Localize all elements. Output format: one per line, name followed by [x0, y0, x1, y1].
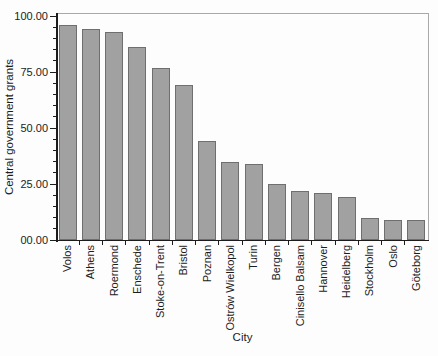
- x-tick-label: Oslo: [388, 245, 399, 268]
- y-axis-line: [56, 13, 58, 242]
- bar: [128, 47, 146, 240]
- y-minor-tick: [53, 139, 56, 140]
- y-major-tick: [50, 184, 56, 185]
- bar: [314, 193, 332, 240]
- x-tick: [265, 241, 266, 245]
- x-tick: [149, 241, 150, 245]
- x-tick: [242, 241, 243, 245]
- y-minor-tick: [53, 161, 56, 162]
- y-minor-tick: [53, 60, 56, 61]
- y-tick-label: 75.00: [0, 66, 48, 79]
- x-tick-label: Stockholm: [364, 245, 375, 296]
- bar: [338, 197, 356, 240]
- x-tick: [311, 241, 312, 245]
- x-tick-label: Bergen: [271, 245, 282, 280]
- x-tick: [195, 241, 196, 245]
- x-tick-label: Stoke-on-Trent: [155, 245, 166, 318]
- bar: [175, 85, 193, 240]
- x-tick-label: Poznan: [202, 245, 213, 282]
- bar: [152, 68, 170, 240]
- x-tick-label: Bristol: [178, 245, 189, 276]
- y-minor-tick: [53, 206, 56, 207]
- x-tick-label: Turin: [248, 245, 259, 270]
- bar-chart: Central government grants 00.0025.0050.0…: [0, 0, 438, 356]
- bar: [245, 164, 263, 240]
- y-major-tick: [50, 16, 56, 17]
- x-tick-label: Hannover: [318, 245, 329, 293]
- bar: [198, 141, 216, 240]
- y-major-tick: [50, 240, 56, 241]
- x-tick-label: Cinisello Balsam: [295, 245, 306, 326]
- x-tick-label: Enschede: [132, 245, 143, 294]
- bar: [407, 220, 425, 240]
- y-minor-tick: [53, 94, 56, 95]
- bar: [361, 218, 379, 240]
- y-tick-label: 25.00: [0, 178, 48, 191]
- y-minor-tick: [53, 83, 56, 84]
- y-tick-label: 50.00: [0, 122, 48, 135]
- y-tick-label: 100.00: [0, 10, 48, 23]
- y-minor-tick: [53, 38, 56, 39]
- bar: [82, 29, 100, 240]
- bar: [105, 32, 123, 240]
- y-minor-tick: [53, 217, 56, 218]
- x-tick: [358, 241, 359, 245]
- bar: [384, 220, 402, 240]
- bar: [291, 191, 309, 240]
- y-minor-tick: [53, 150, 56, 151]
- y-minor-tick: [53, 116, 56, 117]
- y-minor-tick: [53, 49, 56, 50]
- x-tick: [79, 241, 80, 245]
- x-axis-title: City: [56, 331, 429, 343]
- y-minor-tick: [53, 27, 56, 28]
- bar: [268, 184, 286, 240]
- x-tick: [172, 241, 173, 245]
- x-tick-label: Roermond: [109, 245, 120, 296]
- x-tick-label: Athens: [85, 245, 96, 279]
- x-tick-label: Göteborg: [411, 245, 422, 291]
- x-tick: [381, 241, 382, 245]
- y-major-tick: [50, 72, 56, 73]
- y-minor-tick: [53, 195, 56, 196]
- bar: [59, 25, 77, 240]
- x-tick: [404, 241, 405, 245]
- x-tick: [125, 241, 126, 245]
- y-minor-tick: [53, 172, 56, 173]
- x-tick: [335, 241, 336, 245]
- y-tick-label: 00.00: [0, 234, 48, 247]
- y-minor-tick: [53, 228, 56, 229]
- y-major-tick: [50, 128, 56, 129]
- x-tick: [102, 241, 103, 245]
- x-tick-label: Heidelberg: [341, 245, 352, 298]
- bar: [221, 162, 239, 240]
- y-minor-tick: [53, 105, 56, 106]
- x-tick: [218, 241, 219, 245]
- x-tick-label: Volos: [62, 245, 73, 272]
- x-tick: [288, 241, 289, 245]
- x-tick-label: Ostrów Wielkopol: [225, 245, 236, 331]
